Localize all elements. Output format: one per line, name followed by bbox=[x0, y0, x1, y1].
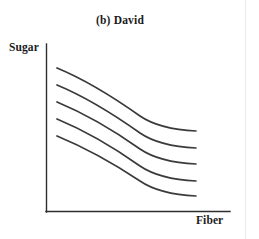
curves-group bbox=[57, 68, 196, 196]
indifference-curve-1 bbox=[57, 68, 196, 131]
indifference-curve-2 bbox=[57, 85, 196, 148]
axes-group bbox=[46, 44, 230, 212]
indifference-curve-3 bbox=[57, 102, 196, 164]
indifference-curve-plot bbox=[0, 0, 259, 239]
figure-container: (b) David Sugar Fiber bbox=[0, 0, 259, 239]
